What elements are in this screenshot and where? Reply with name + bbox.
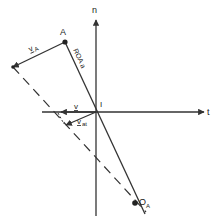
vA-tip-point — [11, 65, 15, 69]
velocity-diagram: n t A I O A v A ROA a v v at — [0, 0, 222, 216]
vA-label: v A — [27, 42, 39, 55]
vat-vector — [66, 112, 96, 125]
point-OA — [132, 200, 138, 206]
svg-text:at: at — [82, 121, 87, 127]
svg-text:A: A — [146, 203, 150, 209]
point-A-label: A — [60, 27, 66, 37]
svg-text:v: v — [77, 117, 81, 126]
diagram-canvas: n t A I O A v A ROA a v v at — [0, 0, 222, 216]
svg-text:O: O — [139, 197, 146, 207]
t-axis-label: t — [207, 107, 210, 117]
dashed-line — [13, 67, 146, 212]
point-I-label: I — [100, 100, 102, 109]
point-A — [62, 39, 67, 44]
svg-text:ROA a: ROA a — [72, 47, 87, 69]
v-label: v — [74, 102, 78, 111]
dashed-connector — [58, 113, 64, 124]
n-axis-label: n — [92, 5, 97, 15]
point-OA-label: O A — [139, 197, 150, 209]
RoA-label: ROA a — [72, 47, 87, 69]
radius-line-A-OA — [65, 42, 145, 214]
vA-vector — [13, 42, 65, 67]
